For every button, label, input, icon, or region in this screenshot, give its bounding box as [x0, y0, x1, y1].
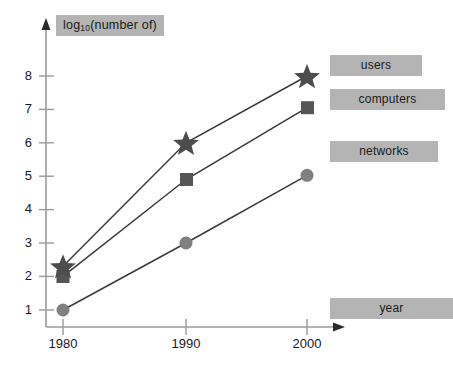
- y-tick-label-5: 5: [14, 168, 32, 183]
- legend-label-networks: networks: [330, 141, 438, 162]
- y-axis-title-subscript: 10: [80, 23, 90, 33]
- data-point-networks-1980: [57, 304, 70, 317]
- x-tick-label-1990: 1990: [163, 336, 209, 351]
- legend-label-users: users: [330, 55, 422, 76]
- y-tick-label-3: 3: [14, 235, 32, 250]
- y-tick-label-6: 6: [14, 135, 32, 150]
- y-tick-label-7: 7: [14, 101, 32, 116]
- y-tick-label-8: 8: [14, 68, 32, 83]
- x-axis-title: year: [330, 298, 453, 319]
- data-point-users-2000: [294, 64, 320, 88]
- y-axis-title-base: log: [63, 18, 80, 32]
- series-line-computers: [63, 108, 307, 277]
- series-markers-networks: [57, 169, 314, 317]
- chart-container: log10(number of) users computers network…: [0, 0, 453, 371]
- y-tick-label-1: 1: [14, 302, 32, 317]
- y-axis: [42, 18, 51, 327]
- x-axis: [46, 323, 345, 332]
- x-tick-label-2000: 2000: [284, 336, 330, 351]
- y-tick-label-2: 2: [14, 268, 32, 283]
- data-point-computers-1990: [180, 173, 193, 186]
- y-tick-label-4: 4: [14, 201, 32, 216]
- series-markers-computers: [57, 101, 315, 283]
- y-axis-title-rest: (number of): [90, 18, 157, 32]
- x-tick-label-1980: 1980: [40, 336, 86, 351]
- legend-label-computers: computers: [330, 89, 445, 110]
- data-point-networks-2000: [301, 169, 314, 182]
- data-point-networks-1990: [180, 237, 193, 250]
- y-axis-title: log10(number of): [56, 15, 164, 36]
- data-point-computers-2000: [301, 101, 314, 114]
